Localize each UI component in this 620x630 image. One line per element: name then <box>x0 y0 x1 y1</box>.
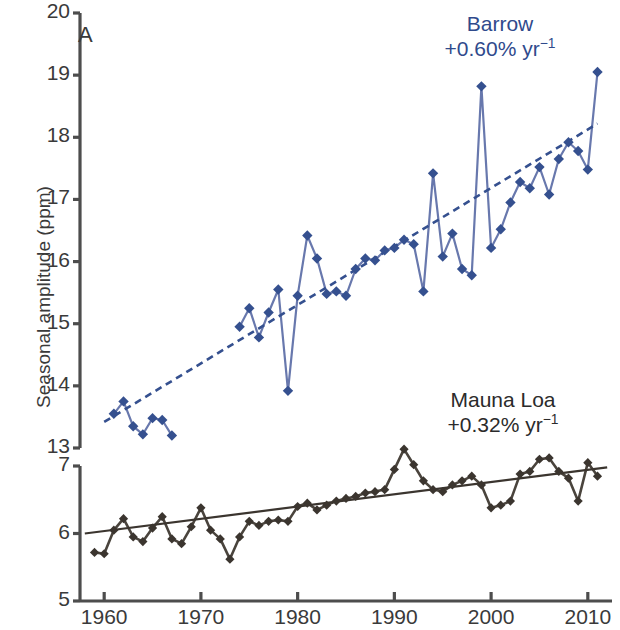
y-tick-label-upper: 19 <box>24 61 70 85</box>
data-point-mauna-loa <box>90 548 99 557</box>
data-point-barrow <box>273 284 283 294</box>
x-tick-label: 1960 <box>69 605 139 629</box>
y-tick-label-upper: 17 <box>24 185 70 209</box>
data-point-mauna-loa <box>457 476 466 485</box>
data-point-barrow <box>341 291 351 301</box>
series-line-mauna-loa <box>95 449 598 559</box>
data-point-barrow <box>283 386 293 396</box>
y-tick-label-lower: 5 <box>24 587 70 611</box>
x-tick-label: 1990 <box>359 605 429 629</box>
data-point-barrow <box>438 251 448 261</box>
series-line-barrow <box>240 72 598 391</box>
data-point-barrow <box>583 164 593 174</box>
data-point-barrow <box>254 332 264 342</box>
data-point-mauna-loa <box>506 497 515 506</box>
y-tick-label-lower: 7 <box>24 452 70 476</box>
barrow-rate: +0.60% yr−1 <box>400 36 600 61</box>
mauna-label: Mauna Loa <box>450 388 555 411</box>
data-point-barrow <box>312 253 322 263</box>
y-tick-label-upper: 15 <box>24 310 70 334</box>
data-point-barrow <box>554 154 564 164</box>
mauna-rate: +0.32% yr−1 <box>398 412 608 437</box>
series-annotation-mauna-loa: Mauna Loa +0.32% yr−1 <box>398 388 608 437</box>
data-point-mauna-loa <box>496 501 505 510</box>
series-layer <box>85 67 607 564</box>
data-point-barrow <box>234 322 244 332</box>
data-point-mauna-loa <box>225 555 234 564</box>
data-point-mauna-loa <box>486 503 495 512</box>
data-point-mauna-loa <box>167 534 176 543</box>
data-point-barrow <box>515 177 525 187</box>
y-tick-label-upper: 16 <box>24 248 70 272</box>
trend-line-barrow <box>104 124 597 422</box>
axes-layer <box>73 13 612 601</box>
data-point-mauna-loa <box>264 517 273 526</box>
data-point-barrow <box>534 162 544 172</box>
data-point-barrow <box>457 264 467 274</box>
data-point-mauna-loa <box>390 465 399 474</box>
x-tick-label: 2000 <box>456 605 526 629</box>
y-tick-label-upper: 14 <box>24 372 70 396</box>
y-tick-label-upper: 18 <box>24 123 70 147</box>
series-annotation-barrow: Barrow +0.60% yr−1 <box>400 12 600 61</box>
data-point-barrow <box>505 197 515 207</box>
data-point-barrow <box>331 286 341 296</box>
data-point-barrow <box>302 230 312 240</box>
data-point-mauna-loa <box>332 497 341 506</box>
data-point-mauna-loa <box>361 488 370 497</box>
data-point-barrow <box>496 224 506 234</box>
data-point-mauna-loa <box>380 485 389 494</box>
x-tick-label: 1970 <box>166 605 236 629</box>
y-tick-label-upper: 20 <box>24 0 70 23</box>
x-tick-label: 1980 <box>263 605 333 629</box>
data-point-barrow <box>592 67 602 77</box>
data-point-barrow <box>418 286 428 296</box>
data-point-mauna-loa <box>254 521 263 530</box>
data-point-mauna-loa <box>274 515 283 524</box>
data-point-barrow <box>292 291 302 301</box>
data-point-barrow <box>409 239 419 249</box>
data-point-barrow <box>263 307 273 317</box>
x-tick-label: 2010 <box>553 605 620 629</box>
data-point-barrow <box>157 415 167 425</box>
data-point-barrow <box>544 189 554 199</box>
plot-canvas <box>0 0 620 630</box>
data-point-barrow <box>476 81 486 91</box>
data-point-barrow <box>447 228 457 238</box>
data-point-mauna-loa <box>370 487 379 496</box>
data-point-barrow <box>244 303 254 313</box>
data-point-mauna-loa <box>100 549 109 558</box>
data-point-mauna-loa <box>196 503 205 512</box>
data-point-barrow <box>147 413 157 423</box>
data-point-mauna-loa <box>574 497 583 506</box>
data-point-barrow <box>167 430 177 440</box>
figure-panel-a: Seasonal amplitude (ppm) A Barrow +0.60%… <box>0 0 620 630</box>
data-point-barrow <box>428 168 438 178</box>
data-point-mauna-loa <box>129 532 138 541</box>
data-point-barrow <box>486 243 496 253</box>
y-tick-label-lower: 6 <box>24 520 70 544</box>
panel-label-a: A <box>78 22 93 48</box>
barrow-label: Barrow <box>467 12 534 35</box>
